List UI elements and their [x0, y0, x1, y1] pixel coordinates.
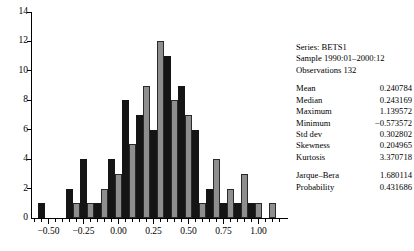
statistic-row: Mean0.240784: [296, 83, 412, 94]
histogram-bar: [122, 100, 129, 218]
histogram-bar: [157, 41, 164, 218]
stat-value: 1.139572: [380, 106, 412, 117]
statistics-header: Series: BETS1 Sample 1990:01–2000:12 Obs…: [296, 42, 412, 76]
x-tick-label: −0.25: [73, 227, 95, 237]
stat-key: Jarque–Bera: [296, 170, 339, 181]
histogram-bar: [269, 203, 276, 218]
stat-key: Median: [296, 95, 322, 106]
test-row: Probability0.431686: [296, 182, 412, 193]
statistic-row: Minimum−0.573572: [296, 118, 412, 129]
stat-key: Kurtosis: [296, 152, 325, 163]
histogram-bar: [206, 189, 213, 218]
observations-count: Observations 132: [296, 65, 412, 76]
histogram-bar: [227, 189, 234, 218]
stat-key: Std dev: [296, 129, 322, 140]
histogram-bar: [185, 115, 192, 218]
histogram-bar: [143, 86, 150, 218]
histogram-bar: [248, 203, 255, 218]
statistic-row: Median0.243169: [296, 95, 412, 106]
stat-key: Probability: [296, 182, 334, 193]
histogram-bar: [199, 203, 206, 218]
stat-key: Skewness: [296, 140, 330, 151]
stat-value: 0.431686: [380, 182, 412, 193]
histogram-figure: 02468101214 −0.50−0.250.000.250.500.751.…: [0, 0, 414, 251]
stat-value: 0.240784: [380, 83, 412, 94]
test-row: Jarque–Bera1.680114: [296, 170, 412, 181]
statistic-row: Kurtosis3.370718: [296, 152, 412, 163]
x-tick-label: −0.50: [38, 227, 60, 237]
x-axis-tick-labels: −0.50−0.250.000.250.500.751.00: [0, 227, 292, 241]
histogram-bar: [192, 130, 199, 218]
statistic-row: Std dev0.302802: [296, 129, 412, 140]
histogram-bar: [115, 174, 122, 218]
histogram-bar: [220, 203, 227, 218]
histogram-bar: [164, 56, 171, 218]
stat-value: 0.302802: [380, 129, 412, 140]
histogram-bar: [213, 159, 220, 218]
histogram-bars: [31, 12, 283, 218]
statistics-panel: Series: BETS1 Sample 1990:01–2000:12 Obs…: [296, 42, 412, 193]
histogram-bar: [80, 159, 87, 218]
x-tick-label: 0.75: [215, 227, 232, 237]
histogram-bar: [66, 189, 73, 218]
stat-key: Mean: [296, 83, 316, 94]
histogram-bar: [101, 189, 108, 218]
stat-value: 0.243169: [380, 95, 412, 106]
series-name: Series: BETS1: [296, 42, 412, 53]
x-tick-label: 0.25: [145, 227, 162, 237]
stat-key: Maximum: [296, 106, 332, 117]
x-tick-label: 0.00: [110, 227, 127, 237]
histogram-bar: [87, 203, 94, 218]
sample-range: Sample 1990:01–2000:12: [296, 53, 412, 64]
x-tick-label: 0.50: [180, 227, 197, 237]
histogram-bar: [136, 115, 143, 218]
histogram-bar: [241, 174, 248, 218]
stat-value: 0.204965: [380, 140, 412, 151]
normality-test-list: Jarque–Bera1.680114Probability0.431686: [296, 170, 412, 193]
histogram-bar: [234, 203, 241, 218]
spacer: [296, 76, 412, 83]
histogram-bar: [108, 159, 115, 218]
histogram-bar: [38, 203, 45, 218]
histogram-bar: [129, 144, 136, 218]
histogram-bar: [255, 203, 262, 218]
stat-value: 3.370718: [380, 152, 412, 163]
stat-value: 1.680114: [380, 170, 412, 181]
stat-value: −0.573572: [375, 118, 412, 129]
x-tick-label: 1.00: [250, 227, 267, 237]
histogram-bar: [178, 86, 185, 218]
plot-area: 02468101214 −0.50−0.250.000.250.500.751.…: [0, 0, 292, 251]
statistic-row: Maximum1.139572: [296, 106, 412, 117]
spacer: [296, 163, 412, 170]
descriptive-statistics-list: Mean0.240784Median0.243169Maximum1.13957…: [296, 83, 412, 163]
statistic-row: Skewness0.204965: [296, 140, 412, 151]
histogram-bar: [150, 130, 157, 218]
histogram-bar: [94, 203, 101, 218]
histogram-bar: [171, 100, 178, 218]
histogram-bar: [73, 203, 80, 218]
stat-key: Minimum: [296, 118, 330, 129]
